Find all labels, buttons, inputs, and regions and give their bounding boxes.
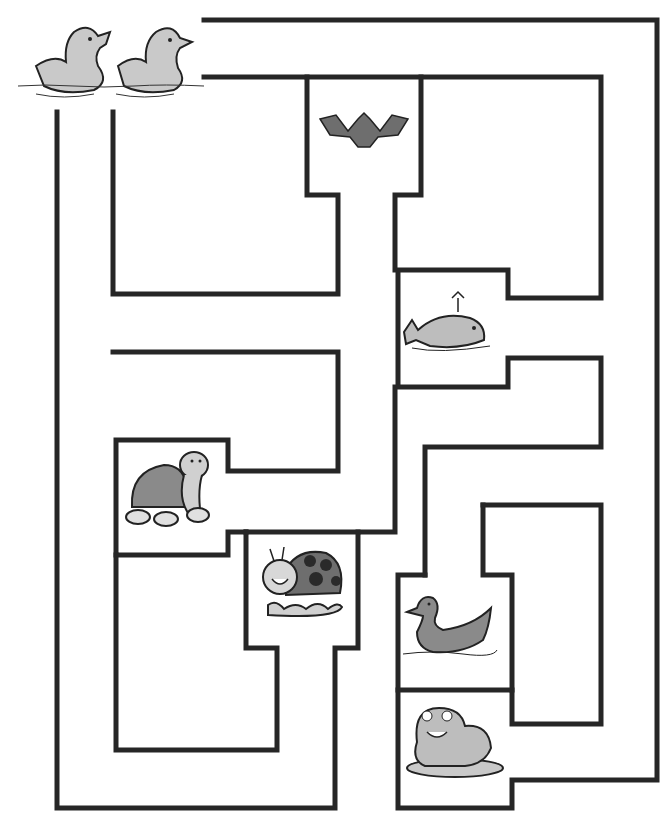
- duck-icon: [403, 592, 498, 664]
- frog: [405, 702, 505, 778]
- bat: [318, 105, 410, 150]
- bat-icon: [318, 105, 410, 150]
- frog-icon: [405, 702, 505, 778]
- duckling-start: [14, 14, 204, 104]
- duckling-icon: [14, 14, 204, 104]
- duck: [403, 592, 498, 664]
- turtle-icon: [124, 447, 214, 529]
- whale-icon: [400, 290, 495, 355]
- turtle: [124, 447, 214, 529]
- whale: [400, 290, 495, 355]
- ladybug-icon: [256, 543, 348, 623]
- ladybug: [256, 543, 348, 623]
